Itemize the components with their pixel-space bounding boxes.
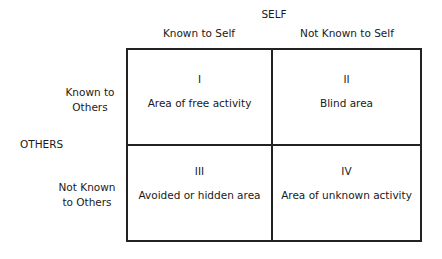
row-header-not-known-to-others: Not Known to Others (55, 180, 119, 210)
quadrant-text: Area of unknown activity (273, 188, 420, 202)
column-header-not-known-to-self: Not Known to Self (273, 26, 421, 41)
row-header-line: Not Known (55, 180, 119, 195)
quadrant-numeral: IV (273, 164, 420, 178)
column-header-known-to-self: Known to Self (126, 26, 272, 41)
quadrant-numeral: I (128, 72, 271, 86)
row-header-line: Known to (60, 85, 120, 100)
grid-middle-divider (126, 144, 422, 146)
quadrant-numeral: III (128, 164, 271, 178)
row-header-line: to Others (55, 195, 119, 210)
quadrant-text: Blind area (273, 96, 420, 110)
row-header-line: Others (60, 100, 120, 115)
grid-top-border (126, 48, 422, 50)
self-axis-label: SELF (259, 7, 289, 22)
quadrant-free-activity: I Area of free activity (128, 72, 271, 110)
quadrant-text: Area of free activity (128, 96, 271, 110)
quadrant-blind-area: II Blind area (273, 72, 420, 110)
others-axis-label: OTHERS (20, 137, 66, 152)
row-header-known-to-others: Known to Others (60, 85, 120, 115)
quadrant-unknown-activity: IV Area of unknown activity (273, 164, 420, 202)
quadrant-hidden-area: III Avoided or hidden area (128, 164, 271, 202)
grid-right-border (420, 48, 422, 242)
quadrant-numeral: II (273, 72, 420, 86)
quadrant-text: Avoided or hidden area (128, 188, 271, 202)
grid-bottom-border (126, 240, 422, 242)
